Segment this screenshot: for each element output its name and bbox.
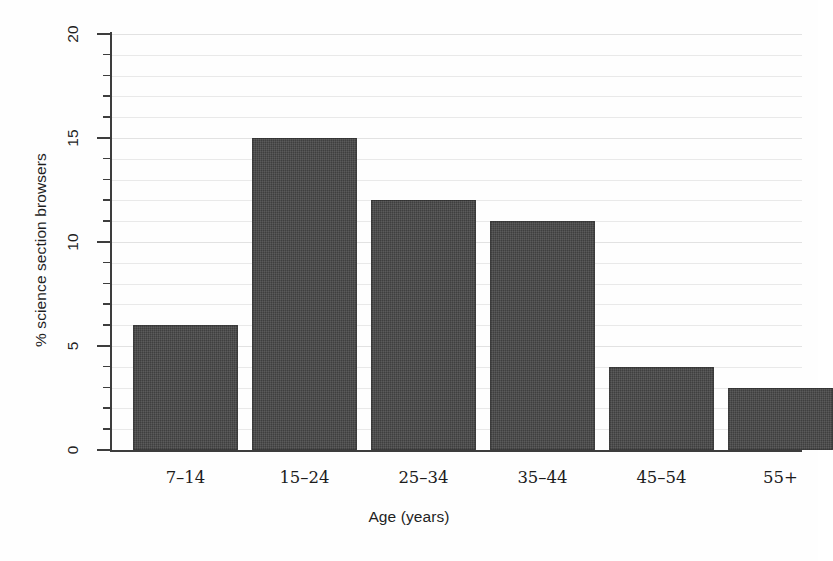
y-axis-minor-tick [103,95,110,97]
y-axis-minor-tick [103,199,110,201]
y-axis-tick-label: 15 [63,113,83,163]
x-axis-tick-label: 15–24 [252,466,357,490]
y-axis-tick-label: 0 [63,425,83,475]
x-axis-tick-label: 35–44 [490,466,595,490]
y-axis-minor-tick [103,428,110,430]
y-axis-title: % science section browsers [28,40,54,460]
y-axis-major-tick [97,33,110,35]
x-axis-tick-label: 45–54 [609,466,714,490]
y-axis-tick-label: 20 [63,9,83,59]
gridline [112,34,802,35]
bar [728,388,833,450]
x-axis-tick-label: 55+ [728,466,833,490]
gridline [112,138,802,139]
bar [609,367,714,450]
x-axis-line [110,450,802,452]
y-axis-tick-label: 10 [63,217,83,267]
bar [252,138,357,450]
bar [490,221,595,450]
gridline [112,117,802,118]
x-axis-tick-label: 25–34 [371,466,476,490]
y-axis-tick-label: 5 [63,321,83,371]
gridline [112,180,802,181]
y-axis-minor-tick [103,324,110,326]
y-axis-major-tick [97,241,110,243]
y-axis-minor-tick [103,158,110,160]
gridline [112,159,802,160]
y-axis-minor-tick [103,303,110,305]
x-axis-title: Age (years) [0,508,818,526]
y-axis-minor-tick [103,283,110,285]
y-axis-major-tick [97,345,110,347]
plot-area [112,34,802,450]
y-axis-minor-tick [103,220,110,222]
y-axis-minor-tick [103,407,110,409]
y-axis-minor-tick [103,262,110,264]
bar [371,200,476,450]
y-axis-minor-tick [103,54,110,56]
gridline [112,76,802,77]
x-axis-tick-label: 7–14 [133,466,238,490]
y-axis-minor-tick [103,116,110,118]
bar [133,325,238,450]
y-axis-major-tick [97,137,110,139]
gridline [112,55,802,56]
y-axis-minor-tick [103,366,110,368]
y-axis-minor-tick [103,75,110,77]
y-axis-major-tick [97,449,110,451]
y-axis-minor-tick [103,179,110,181]
gridline [112,96,802,97]
y-axis-minor-tick [103,387,110,389]
